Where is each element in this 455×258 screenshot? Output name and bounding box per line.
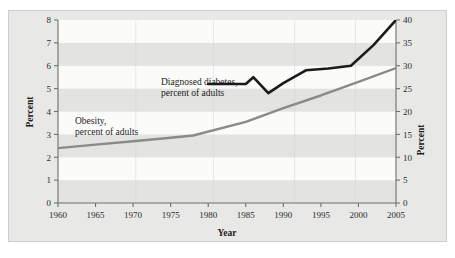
left-tick-label: 4 bbox=[47, 107, 52, 117]
right-tick-label: 0 bbox=[403, 198, 408, 208]
right-axis-title: Percent bbox=[416, 124, 426, 156]
obesity-annotation-line1: Obesity, bbox=[75, 116, 106, 126]
diabetes-annotation-line1: Diagnosed diabetes, bbox=[161, 77, 238, 87]
x-tick-label: 1985 bbox=[237, 210, 256, 220]
right-tick-label: 20 bbox=[403, 107, 413, 117]
right-tick-label: 35 bbox=[403, 38, 413, 48]
background-bands bbox=[58, 20, 396, 203]
right-tick-label: 10 bbox=[403, 153, 413, 163]
diabetes-annotation-line2: percent of adults bbox=[161, 88, 225, 98]
x-tick-label: 2005 bbox=[387, 210, 406, 220]
left-tick-label: 2 bbox=[47, 153, 52, 163]
left-tick-label: 6 bbox=[47, 61, 52, 71]
line-chart: 012345678 0510152025303540 1960196519701… bbox=[0, 0, 455, 258]
x-tick-label: 1990 bbox=[274, 210, 293, 220]
x-tick-label: 1995 bbox=[312, 210, 331, 220]
x-tick-label: 1970 bbox=[124, 210, 143, 220]
x-tick-label: 1980 bbox=[199, 210, 218, 220]
left-tick-label: 5 bbox=[47, 84, 52, 94]
left-tick-label: 7 bbox=[47, 38, 52, 48]
left-tick-label: 0 bbox=[47, 198, 52, 208]
right-tick-label: 40 bbox=[403, 15, 413, 25]
plot-wrapper: 012345678 0510152025303540 1960196519701… bbox=[0, 0, 455, 258]
right-tick-label: 30 bbox=[403, 61, 413, 71]
left-tick-label: 3 bbox=[47, 130, 52, 140]
obesity-annotation-line2: percent of adults bbox=[75, 127, 139, 137]
right-tick-label: 25 bbox=[403, 84, 413, 94]
x-tick-label: 1960 bbox=[49, 210, 68, 220]
x-axis-title: Year bbox=[218, 228, 238, 238]
left-tick-label: 1 bbox=[47, 175, 52, 185]
x-tick-label: 2000 bbox=[349, 210, 368, 220]
right-tick-label: 15 bbox=[403, 130, 413, 140]
left-axis-title: Percent bbox=[25, 96, 35, 128]
right-axis-ticks: 0510152025303540 bbox=[396, 15, 413, 208]
right-tick-label: 5 bbox=[403, 175, 408, 185]
left-tick-label: 8 bbox=[47, 15, 52, 25]
figure-container: 012345678 0510152025303540 1960196519701… bbox=[0, 0, 455, 258]
x-axis-ticks: 1960196519701975198019851990199520002005 bbox=[49, 203, 406, 220]
x-tick-label: 1965 bbox=[87, 210, 106, 220]
x-tick-label: 1975 bbox=[162, 210, 181, 220]
left-axis-ticks: 012345678 bbox=[47, 15, 59, 208]
